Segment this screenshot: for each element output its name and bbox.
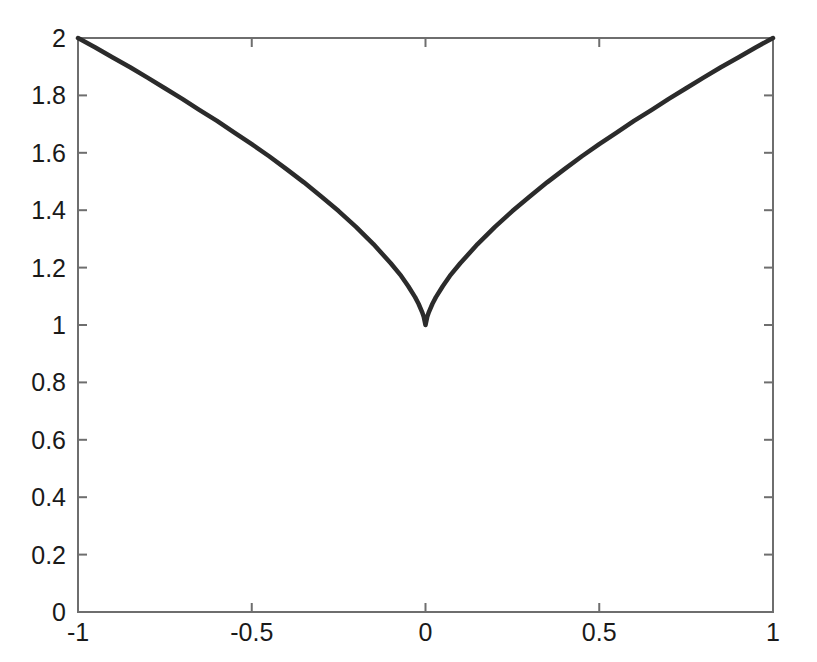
- y-tick-label-1_0: 1: [0, 313, 66, 338]
- x-tick-label-neg1: -1: [67, 620, 89, 645]
- data-series-line: [78, 38, 773, 325]
- y-tick-label-1_6: 1.6: [0, 140, 66, 165]
- plot-area: [0, 0, 817, 662]
- y-tick-label-0_0: 0: [0, 600, 66, 625]
- y-tick-label-0_4: 0.4: [0, 485, 66, 510]
- y-tick-label-1_8: 1.8: [0, 83, 66, 108]
- y-tick-label-0_6: 0.6: [0, 427, 66, 452]
- x-tick-label-0_5: 0.5: [582, 620, 617, 645]
- figure-canvas: 2 1.8 1.6 1.4 1.2 1 0.8 0.6 0.4 0.2 0 -1…: [0, 0, 817, 662]
- y-tick-label-1_4: 1.4: [0, 198, 66, 223]
- x-tick-label-neg0_5: -0.5: [230, 620, 273, 645]
- x-tick-label-0: 0: [419, 620, 433, 645]
- x-tick-label-1: 1: [766, 620, 780, 645]
- y-tick-label-1_2: 1.2: [0, 255, 66, 280]
- y-tick-label-0_2: 0.2: [0, 542, 66, 567]
- y-tick-label-0_8: 0.8: [0, 370, 66, 395]
- y-tick-label-2_0: 2: [0, 26, 66, 51]
